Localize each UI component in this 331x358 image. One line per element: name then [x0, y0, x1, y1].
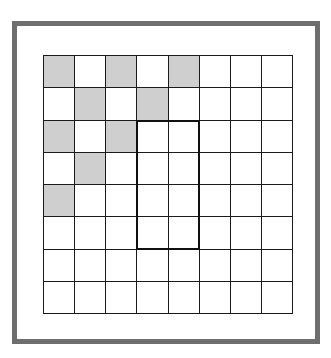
grid-cell: [136, 216, 168, 249]
grid-cell: [230, 55, 262, 88]
grid-cell: [105, 281, 137, 314]
grid-cell: [136, 281, 168, 314]
grid-cell: [261, 216, 293, 249]
grid-cell: [136, 120, 168, 153]
grid-cell: [168, 249, 200, 282]
grid-cell: [74, 120, 106, 153]
grid-cell: [230, 120, 262, 153]
grid-cell: [199, 184, 231, 217]
grid-board: [43, 55, 292, 313]
grid-cell: [74, 55, 106, 88]
grid-cell: [199, 87, 231, 120]
grid-cell: [199, 152, 231, 185]
grid-cell: [261, 281, 293, 314]
grid-cell-shaded: [74, 152, 106, 185]
grid-cell: [168, 281, 200, 314]
grid-cell: [168, 87, 200, 120]
grid-cell: [199, 249, 231, 282]
grid-cell: [43, 87, 75, 120]
grid-cell: [74, 184, 106, 217]
grid-cell: [168, 152, 200, 185]
grid-cell-shaded: [105, 120, 137, 153]
grid-cell: [230, 152, 262, 185]
grid-cell: [261, 249, 293, 282]
grid-cell: [199, 55, 231, 88]
grid-cell: [199, 216, 231, 249]
grid-cell: [230, 184, 262, 217]
grid-cell: [105, 216, 137, 249]
grid-cell: [105, 87, 137, 120]
grid-cell-shaded: [74, 87, 106, 120]
grid-cell: [43, 249, 75, 282]
grid-cell: [43, 281, 75, 314]
grid-cell: [105, 152, 137, 185]
grid-cell: [105, 249, 137, 282]
grid-cell: [74, 216, 106, 249]
grid-cell: [74, 281, 106, 314]
grid-cell-shaded: [43, 120, 75, 153]
grid-cell: [168, 120, 200, 153]
grid-cell-shaded: [136, 87, 168, 120]
grid-cell: [261, 152, 293, 185]
grid-cell: [261, 87, 293, 120]
grid-cell-shaded: [43, 184, 75, 217]
grid-cell: [230, 281, 262, 314]
grid-cell: [43, 152, 75, 185]
grid-cell: [136, 55, 168, 88]
grid-cell: [261, 55, 293, 88]
grid-cell: [199, 120, 231, 153]
grid-cell: [105, 184, 137, 217]
grid-cell: [230, 87, 262, 120]
grid-cell-shaded: [43, 55, 75, 88]
grid-cell-shaded: [168, 55, 200, 88]
grid-cell: [136, 152, 168, 185]
grid-cell: [199, 281, 231, 314]
grid-cell: [261, 120, 293, 153]
grid-cell: [43, 216, 75, 249]
grid-cell: [230, 216, 262, 249]
grid-cell: [168, 216, 200, 249]
grid-cell: [136, 184, 168, 217]
grid-cell: [74, 249, 106, 282]
grid-cell: [261, 184, 293, 217]
grid-cell: [168, 184, 200, 217]
grid-cell: [230, 249, 262, 282]
grid-cell-shaded: [105, 55, 137, 88]
grid-cell: [136, 249, 168, 282]
